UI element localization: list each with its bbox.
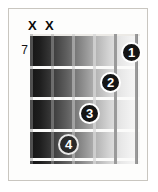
mute-marker-string-2: X [45,19,54,32]
fret-line-1 [30,66,140,69]
muted-strings-row: X X [0,0,158,34]
string-line-1 [30,34,33,164]
starting-fret-label: 7 [14,44,28,56]
finger-dot-3: 3 [79,103,100,124]
finger-dot-4: 4 [58,134,79,155]
string-line-2 [51,34,54,164]
finger-dot-1: 1 [121,42,142,63]
fret-line-2 [30,97,140,100]
chord-diagram: X X 7 1 2 3 4 [0,0,158,192]
finger-dot-2: 2 [100,72,121,93]
fret-line-3 [30,129,140,132]
string-line-4 [93,34,96,164]
mute-marker-string-1: X [28,19,37,32]
fret-line-0 [30,34,140,36]
fret-line-4 [30,158,140,161]
string-overlay-5 [114,34,116,164]
